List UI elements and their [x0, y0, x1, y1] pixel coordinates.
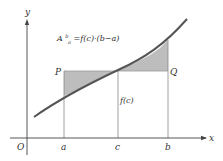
height-label-fc: f(c): [119, 96, 134, 105]
y-axis-label: y: [24, 7, 31, 17]
point-label-p: P: [54, 67, 62, 77]
formula: A b a =f(c)·(b−a): [56, 31, 119, 46]
point-label-q: Q: [170, 67, 178, 77]
origin-label: O: [17, 142, 25, 152]
diagram-canvas: y x O a c b P Q f(c) A b a =f(c)·(b−a): [0, 0, 223, 161]
x-axis-arrow-icon: [201, 136, 207, 140]
formula-rhs: =f(c)·(b−a): [74, 34, 120, 43]
formula-base: A: [56, 34, 63, 43]
tick-label-b: b: [165, 142, 171, 152]
tick-label-c: c: [115, 142, 120, 152]
formula-sub: a: [68, 39, 71, 45]
x-axis-label: x: [209, 133, 214, 143]
tick-label-a: a: [61, 142, 66, 152]
y-axis-arrow-icon: [25, 19, 29, 25]
